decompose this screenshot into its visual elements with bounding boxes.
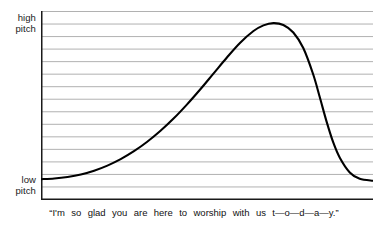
y-axis-low-pitch-label: low pitch [2,174,36,196]
y-axis-high-pitch-label-line1: high [2,12,36,23]
caption-word: t—o—d—a—y.” [272,207,338,218]
y-axis-low-pitch-label-line2: pitch [2,185,36,196]
pitch-curve-svg [41,11,373,200]
caption-word: so [71,207,81,218]
pitch-contour-figure: high pitch low pitch “I'msogladyouareher… [0,0,388,233]
caption-word: are [134,207,148,218]
caption-text: “I'msogladyouareheretoworshipwithust—o—d… [0,207,388,218]
pitch-contour-curve [41,23,373,181]
y-axis-high-pitch-label: high pitch [2,12,36,34]
caption-word: to [179,207,187,218]
caption-word: here [154,207,173,218]
caption-word: us [256,207,266,218]
caption-word: you [112,207,127,218]
caption-word: “I'm [49,207,65,218]
caption-word: glad [88,207,106,218]
caption-word: with [233,207,250,218]
caption-word: worship [194,207,227,218]
plot-area [41,11,373,200]
y-axis-low-pitch-label-line1: low [2,174,36,185]
y-axis-high-pitch-label-line2: pitch [2,23,36,34]
